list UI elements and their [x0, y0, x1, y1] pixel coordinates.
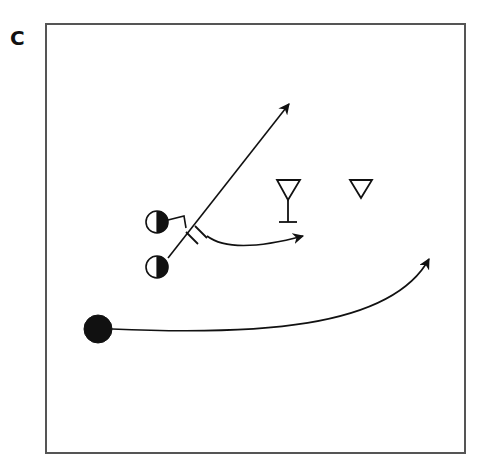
screen-marks: [186, 226, 207, 244]
offense-2-icon: [146, 256, 168, 278]
screen-mark-2: [195, 226, 207, 238]
route-short-curve-path: [207, 236, 303, 246]
defenders: [277, 180, 372, 222]
screen-mark-1: [186, 232, 198, 244]
defender-2-icon: [350, 180, 372, 198]
players: [84, 211, 168, 343]
diagram-frame: [46, 24, 465, 453]
play-diagram: [0, 0, 484, 466]
defender-with-stem-icon: [277, 180, 300, 222]
screen-connector-path: [168, 216, 186, 228]
offense-1-icon: [146, 211, 168, 233]
route-diagonal-path: [168, 104, 289, 258]
ball-carrier-icon: [84, 315, 112, 343]
